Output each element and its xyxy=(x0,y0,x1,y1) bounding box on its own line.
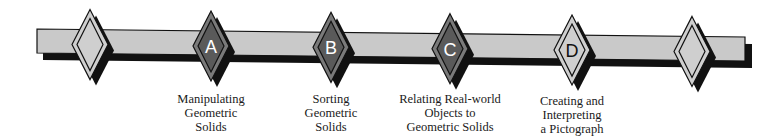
marker-d-diamond: D xyxy=(554,15,596,91)
label-line: Creating and xyxy=(497,94,647,108)
marker-a-diamond: A xyxy=(193,11,235,87)
marker-c-diamond: C xyxy=(432,14,474,90)
marker-letter: D xyxy=(566,41,579,61)
marker-letter: C xyxy=(444,40,457,60)
label-line: a Pictograph xyxy=(497,122,647,136)
marker-letter: B xyxy=(325,38,337,58)
marker-end-diamond xyxy=(674,16,716,92)
label-line: Interpreting xyxy=(497,108,647,122)
marker-b-diamond: B xyxy=(313,12,355,88)
marker-d-label: Creating andInterpretinga Pictograph xyxy=(497,94,647,136)
timeline-diagram: ABCD ManipulatingGeometricSolidsSortingG… xyxy=(0,0,770,140)
marker-letter: A xyxy=(205,37,217,57)
marker-start-diamond xyxy=(72,10,114,86)
